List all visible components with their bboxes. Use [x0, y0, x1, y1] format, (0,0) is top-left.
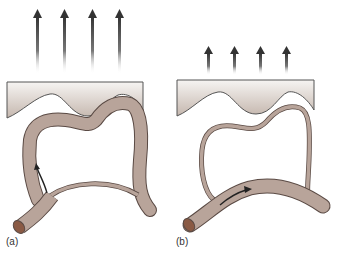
arrow-up-icon	[115, 9, 124, 74]
arrow-up-icon	[282, 46, 291, 75]
arrow-up-icon	[256, 46, 265, 75]
panel-b: (b)	[170, 0, 340, 256]
arrow-up-icon	[33, 9, 42, 74]
panel-a: (a)	[0, 0, 170, 256]
arrow-up-icon	[88, 9, 97, 74]
heat-arrows-short	[204, 46, 291, 75]
panel-label-a: (a)	[6, 236, 18, 247]
panel-a-diagram	[0, 0, 170, 256]
tissue-surface	[177, 80, 314, 116]
arrow-up-icon	[204, 46, 213, 75]
panel-label-b: (b)	[176, 236, 188, 247]
arrow-up-icon	[230, 46, 239, 75]
blood-vessel-loop	[11, 103, 150, 236]
arrow-up-icon	[60, 9, 69, 74]
heat-arrows-long	[33, 9, 124, 74]
panel-b-diagram	[170, 0, 340, 256]
blood-vessel-loop	[181, 107, 323, 234]
